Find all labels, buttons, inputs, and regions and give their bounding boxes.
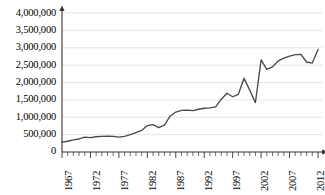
y-axis-arrow-icon	[59, 6, 64, 12]
line-chart: 4,000,000 3,500,000 3,000,000 2,500,000 …	[0, 0, 325, 195]
plot-area	[0, 0, 325, 195]
x-minor-ticks	[62, 152, 318, 158]
data-series-line	[62, 49, 318, 142]
gridlines	[62, 13, 322, 135]
